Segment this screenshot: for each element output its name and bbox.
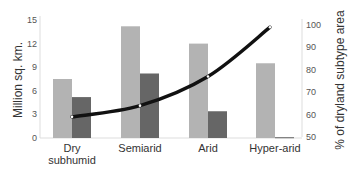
right-tick-label: 80 xyxy=(306,65,316,75)
bar xyxy=(189,44,208,138)
bar xyxy=(275,137,294,138)
right-tick-label: 90 xyxy=(306,42,316,52)
right-y-axis: 5060708090100 xyxy=(302,19,321,142)
bar xyxy=(53,79,72,138)
bar-line-chart: 03691215 5060708090100 DrysubhumidSemiar… xyxy=(0,0,353,169)
right-tick-label: 50 xyxy=(306,132,316,142)
right-axis-label: % of dryland subtype area xyxy=(333,10,347,150)
percent-curve xyxy=(72,27,270,117)
category-label: subhumid xyxy=(48,154,96,166)
data-point-marker xyxy=(269,26,272,29)
left-tick-label: 0 xyxy=(32,133,37,143)
category-label: Dry xyxy=(63,142,81,154)
left-tick-label: 3 xyxy=(32,109,37,119)
right-tick-label: 70 xyxy=(306,87,316,97)
category-label: Hyper-arid xyxy=(249,142,300,154)
category-label: Arid xyxy=(198,142,218,154)
left-tick-label: 9 xyxy=(32,62,37,72)
right-tick-label: 100 xyxy=(306,20,321,30)
data-point-marker xyxy=(139,104,142,107)
data-point-marker xyxy=(71,116,74,119)
left-tick-label: 6 xyxy=(32,86,37,96)
category-label: Semiarid xyxy=(118,142,161,154)
left-axis-label: Million sq. km. xyxy=(11,42,25,118)
bars xyxy=(53,26,294,138)
bar xyxy=(121,26,140,138)
x-axis-categories: DrysubhumidSemiaridAridHyper-arid xyxy=(48,142,301,166)
bar xyxy=(256,63,275,138)
percent-line xyxy=(71,26,272,118)
data-point-marker xyxy=(207,75,210,78)
left-tick-label: 12 xyxy=(27,39,37,49)
bar xyxy=(208,111,227,138)
left-tick-label: 15 xyxy=(27,15,37,25)
right-tick-label: 60 xyxy=(306,110,316,120)
